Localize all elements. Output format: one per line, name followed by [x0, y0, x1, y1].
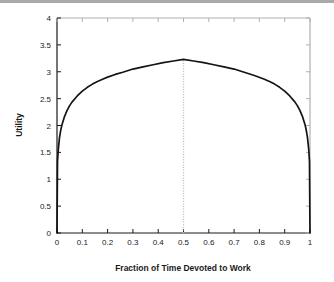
y-tick-label: 3	[47, 68, 52, 77]
y-tick-label: 0	[47, 229, 52, 238]
y-tick-label: 2.5	[40, 95, 52, 104]
x-tick-label: 0	[55, 238, 60, 247]
x-axis-title: Fraction of Time Devoted to Work	[115, 263, 251, 273]
y-tick-label: 2	[47, 122, 52, 131]
y-tick-label: 3.5	[40, 41, 52, 50]
x-tick-label: 0.7	[229, 238, 241, 247]
x-tick-label: 0.2	[102, 238, 114, 247]
y-tick-label: 1.5	[40, 148, 52, 157]
utility-line-chart: 00.10.20.30.40.50.60.70.80.91 00.511.522…	[0, 0, 334, 282]
y-tick-label: 0.5	[40, 202, 52, 211]
x-tick-label: 0.1	[77, 238, 89, 247]
y-tick-label: 4	[47, 14, 52, 23]
y-axis-title: Utility	[14, 113, 24, 137]
chart-figure: 00.10.20.30.40.50.60.70.80.91 00.511.522…	[0, 0, 334, 282]
x-tick-label: 0.5	[178, 238, 190, 247]
x-tick-label: 0.3	[127, 238, 139, 247]
x-axis-tick-labels: 00.10.20.30.40.50.60.70.80.91	[55, 238, 313, 247]
y-tick-label: 1	[47, 175, 52, 184]
x-tick-label: 0.8	[254, 238, 266, 247]
x-tick-label: 1	[308, 238, 313, 247]
x-tick-label: 0.4	[153, 238, 165, 247]
x-tick-label: 0.6	[203, 238, 215, 247]
y-axis-tick-labels: 00.511.522.533.54	[40, 14, 52, 238]
x-tick-label: 0.9	[279, 238, 291, 247]
